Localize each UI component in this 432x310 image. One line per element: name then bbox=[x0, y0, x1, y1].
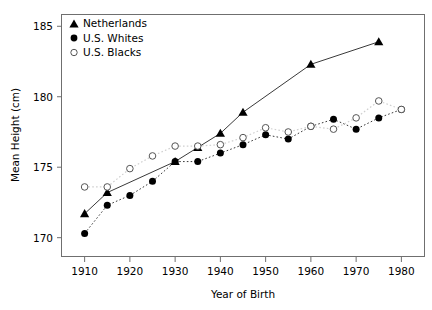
x-tick-label: 1910 bbox=[71, 265, 98, 277]
legend-label-u-s-whites: U.S. Whites bbox=[83, 32, 143, 44]
chart-canvas: 170175180185 191019201930194019501960197… bbox=[0, 0, 432, 310]
data-point-u-s-blacks-1920 bbox=[127, 165, 134, 172]
y-tick-label: 170 bbox=[33, 232, 53, 244]
x-tick-label: 1940 bbox=[207, 265, 234, 277]
legend-label-netherlands: Netherlands bbox=[83, 17, 147, 29]
x-tick-label: 1960 bbox=[298, 265, 325, 277]
data-point-u-s-blacks-1935 bbox=[194, 143, 201, 150]
data-point-u-s-whites-1920 bbox=[126, 192, 133, 199]
legend-marker-filled-circle-icon bbox=[71, 35, 78, 42]
x-tick-label: 1930 bbox=[162, 265, 189, 277]
x-tick-label: 1970 bbox=[343, 265, 370, 277]
legend-label-u-s-blacks: U.S. Blacks bbox=[83, 46, 141, 58]
x-tick-label: 1920 bbox=[117, 265, 144, 277]
data-point-u-s-whites-1910 bbox=[81, 230, 88, 237]
y-axis-title: Mean Height (cm) bbox=[9, 88, 21, 182]
data-point-u-s-blacks-1960 bbox=[308, 123, 315, 130]
data-point-u-s-whites-1970 bbox=[353, 126, 360, 133]
data-point-u-s-blacks-1950 bbox=[262, 124, 269, 131]
data-point-u-s-blacks-1980 bbox=[398, 106, 405, 113]
data-point-u-s-blacks-1945 bbox=[240, 134, 247, 141]
y-tick-label: 175 bbox=[33, 161, 53, 173]
data-point-u-s-blacks-1975 bbox=[375, 98, 382, 105]
y-tick-label: 180 bbox=[33, 91, 53, 103]
data-point-u-s-blacks-1940 bbox=[217, 141, 224, 148]
data-point-u-s-whites-1925 bbox=[149, 178, 156, 185]
x-axis-title: Year of Birth bbox=[210, 288, 275, 300]
data-point-u-s-whites-1955 bbox=[285, 136, 292, 143]
data-point-u-s-blacks-1910 bbox=[81, 184, 88, 191]
data-point-u-s-whites-1950 bbox=[262, 131, 269, 138]
data-point-u-s-whites-1945 bbox=[240, 141, 247, 148]
data-point-u-s-blacks-1930 bbox=[172, 143, 179, 150]
data-point-u-s-whites-1965 bbox=[330, 116, 337, 123]
data-point-u-s-blacks-1965 bbox=[330, 126, 337, 133]
data-point-u-s-blacks-1915 bbox=[104, 184, 111, 191]
data-point-u-s-whites-1935 bbox=[194, 158, 201, 165]
y-tick-label: 185 bbox=[33, 20, 53, 32]
chart-background bbox=[0, 0, 432, 310]
x-tick-label: 1950 bbox=[252, 265, 279, 277]
data-point-u-s-whites-1975 bbox=[375, 114, 382, 121]
legend-marker-open-circle-icon bbox=[71, 49, 77, 55]
x-tick-label: 1980 bbox=[388, 265, 415, 277]
data-point-u-s-whites-1930 bbox=[172, 158, 179, 165]
data-point-u-s-whites-1915 bbox=[104, 202, 111, 209]
data-point-u-s-whites-1940 bbox=[217, 150, 224, 157]
height-trends-chart: 170175180185 191019201930194019501960197… bbox=[0, 0, 432, 310]
data-point-u-s-blacks-1970 bbox=[353, 115, 360, 122]
data-point-u-s-blacks-1925 bbox=[149, 153, 156, 160]
data-point-u-s-blacks-1955 bbox=[285, 129, 292, 136]
